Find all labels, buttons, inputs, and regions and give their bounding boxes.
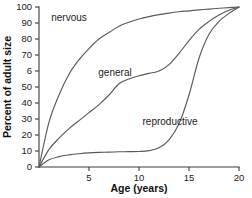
y-tick-label: 0: [27, 161, 32, 172]
chart-canvas: 010203040506708090100 5101520 nervousgen…: [0, 0, 252, 198]
curve-general: [39, 7, 239, 167]
y-tick-label: 50: [21, 81, 32, 92]
y-tick-label: 100: [16, 1, 32, 12]
y-tick-label: 10: [21, 145, 32, 156]
annotation-general: general: [98, 67, 131, 78]
x-axis-ticks: 5101520: [86, 167, 244, 183]
x-tick-label: 20: [234, 172, 245, 183]
annotation-nervous: nervous: [51, 12, 87, 23]
y-tick-label: 40: [21, 97, 32, 108]
x-axis-title: Age (years): [110, 182, 167, 194]
y-tick-label: 20: [21, 129, 32, 140]
growth-curves-chart: 010203040506708090100 5101520 nervousgen…: [0, 0, 252, 198]
series-annotations: nervousgeneralreproductive: [51, 12, 198, 127]
x-tick-label: 15: [184, 172, 195, 183]
axes: [39, 7, 239, 167]
y-tick-label: 6: [27, 65, 32, 76]
y-tick-label: 30: [21, 113, 32, 124]
curve-reproductive: [39, 7, 239, 167]
curve-nervous: [39, 7, 239, 167]
y-axis-ticks: 010203040506708090100: [16, 1, 39, 172]
y-tick-label: 90: [21, 17, 32, 28]
data-curves: [39, 7, 239, 167]
y-tick-label: 70: [21, 49, 32, 60]
x-tick-label: 5: [86, 172, 91, 183]
annotation-reproductive: reproductive: [142, 116, 197, 127]
y-axis-title: Percent of adult size: [1, 36, 13, 138]
y-tick-label: 80: [21, 33, 32, 44]
